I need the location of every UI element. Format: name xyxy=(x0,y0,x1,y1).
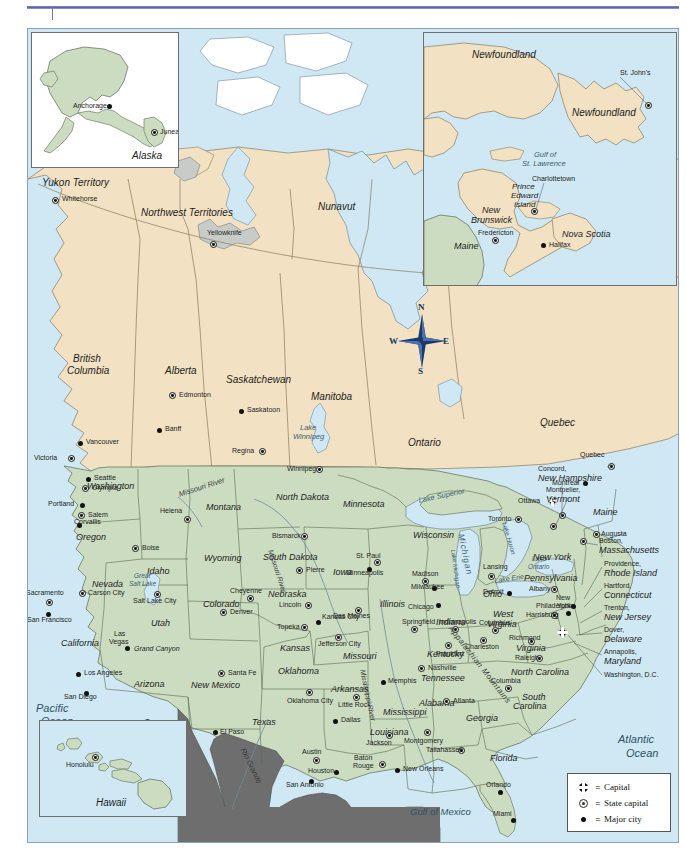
city-dot-ottawa[interactable] xyxy=(548,496,557,505)
city-dot-columbia-sc[interactable] xyxy=(505,685,512,692)
city-dot-new-orleans[interactable] xyxy=(395,768,400,773)
city-dot-winnipeg[interactable] xyxy=(316,466,323,473)
city-dot-lansing[interactable] xyxy=(488,573,495,580)
city-dot-saskatoon[interactable] xyxy=(239,409,244,414)
city-dot-charleston[interactable] xyxy=(480,637,487,644)
city-dot-san-francisco[interactable] xyxy=(46,612,51,617)
city-dot-new-york[interactable] xyxy=(571,604,576,609)
city-dot-chicago[interactable] xyxy=(436,603,441,608)
city-dot-cheyenne[interactable] xyxy=(247,595,254,602)
city-dot-boise[interactable] xyxy=(132,545,139,552)
city-dot-frankfort[interactable] xyxy=(445,642,452,649)
legend-row-state-capital: = State capital xyxy=(574,795,664,811)
city-dot-philadelphia[interactable] xyxy=(566,611,571,616)
city-dot-baton-rouge[interactable] xyxy=(379,761,386,768)
city-dot-yellowknife[interactable] xyxy=(210,241,217,248)
city-dot-edmonton[interactable] xyxy=(169,392,176,399)
city-dot-san-antonio[interactable] xyxy=(309,779,314,784)
city-dot-st-paul[interactable] xyxy=(374,559,381,566)
city-dot-denver[interactable] xyxy=(220,609,227,616)
city-dot-vancouver[interactable] xyxy=(78,441,83,446)
city-dot-fredericton[interactable] xyxy=(492,237,499,244)
inset-canada-east[interactable]: Newfoundland Newfoundland St. John's Gul… xyxy=(423,32,677,286)
city-dot-minneapolis[interactable] xyxy=(367,567,372,572)
city-dot-carson-city[interactable] xyxy=(79,590,86,597)
legend-row-capital: = Capital xyxy=(574,779,664,795)
city-dot-little-rock[interactable] xyxy=(353,694,360,701)
city-dot-montreal[interactable] xyxy=(583,481,588,486)
city-dot-milwaukee[interactable] xyxy=(432,586,437,591)
city-dot-salem[interactable] xyxy=(78,512,85,519)
city-dot-concord[interactable] xyxy=(559,512,566,519)
city-dot-charlottetown[interactable] xyxy=(531,208,538,215)
city-dot-nashville[interactable] xyxy=(418,665,425,672)
alaska-geography xyxy=(32,33,179,168)
city-dot-lincoln[interactable] xyxy=(305,602,312,609)
city-dot-harrisburg[interactable] xyxy=(551,612,558,619)
city-dot-tallahassee[interactable] xyxy=(458,747,465,754)
city-dot-banff[interactable] xyxy=(157,428,162,433)
city-dot-springfield[interactable] xyxy=(411,626,418,633)
city-dot-miami[interactable] xyxy=(511,818,516,823)
city-dot-san-diego[interactable] xyxy=(84,691,89,696)
city-dot-memphis[interactable] xyxy=(381,680,386,685)
city-dot-corvallis[interactable] xyxy=(77,523,82,528)
city-dot-austin[interactable] xyxy=(313,757,320,764)
legend-equals-state-capital: = xyxy=(592,798,604,808)
city-dot-montpelier[interactable] xyxy=(550,523,557,530)
city-dot-oklahoma-city[interactable] xyxy=(306,689,313,696)
city-dot-toronto[interactable] xyxy=(515,516,522,523)
city-dot-washington-dc[interactable] xyxy=(558,628,567,637)
map-canvas[interactable]: Yukon Territory Northwest Territories Nu… xyxy=(27,28,679,843)
city-dot-houston[interactable] xyxy=(334,770,339,775)
city-dot-boston[interactable] xyxy=(580,538,587,545)
city-dot-anchorage[interactable] xyxy=(107,104,112,109)
map-legend[interactable]: = Capital = State capital = Major city xyxy=(567,773,671,832)
city-dot-topeka[interactable] xyxy=(301,624,308,631)
city-dot-las-vegas[interactable] xyxy=(125,646,130,651)
city-dot-des-moines[interactable] xyxy=(355,607,362,614)
city-dot-columbus[interactable] xyxy=(492,627,499,634)
city-dot-helena[interactable] xyxy=(184,516,191,523)
city-dot-seattle[interactable] xyxy=(86,477,91,482)
city-dot-bismarck[interactable] xyxy=(301,533,308,540)
city-dot-juneau[interactable] xyxy=(151,129,158,136)
major-city-icon xyxy=(574,817,592,822)
city-dot-los-angeles[interactable] xyxy=(76,672,81,677)
legend-label-capital: Capital xyxy=(604,782,630,792)
city-dot-salt-lake-city[interactable] xyxy=(154,591,161,598)
legend-label-major-city: Major city xyxy=(604,814,642,824)
city-dot-portland[interactable] xyxy=(80,503,85,508)
city-dot-sacramento[interactable] xyxy=(46,599,53,606)
city-dot-whitehorse[interactable] xyxy=(52,197,59,204)
city-dot-el-paso[interactable] xyxy=(213,730,218,735)
city-dot-santa-fe[interactable] xyxy=(218,670,225,677)
city-dot-halifax[interactable] xyxy=(541,243,546,248)
city-dot-dallas[interactable] xyxy=(333,719,338,724)
city-dot-jackson[interactable] xyxy=(386,732,393,739)
city-dot-raleigh[interactable] xyxy=(536,655,543,662)
city-dot-st-johns[interactable] xyxy=(645,102,652,109)
city-dot-madison[interactable] xyxy=(422,578,429,585)
inset-hawaii[interactable]: Honolulu Hawaii xyxy=(39,720,187,817)
city-dot-montgomery[interactable] xyxy=(424,729,431,736)
legend-label-state-capital: State capital xyxy=(604,798,648,808)
city-dot-victoria[interactable] xyxy=(68,455,75,462)
city-dot-orlando[interactable] xyxy=(498,790,503,795)
city-dot-albany[interactable] xyxy=(551,586,558,593)
city-dot-augusta[interactable] xyxy=(593,531,600,538)
city-dot-olympia[interactable] xyxy=(82,485,89,492)
city-dot-indianapolis[interactable] xyxy=(452,626,459,633)
city-dot-pierre[interactable] xyxy=(296,567,303,574)
city-dot-kansas-city[interactable] xyxy=(316,620,321,625)
city-dot-atlanta[interactable] xyxy=(443,698,450,705)
city-dot-quebec[interactable] xyxy=(608,463,615,470)
city-dot-honolulu[interactable] xyxy=(92,754,99,761)
city-dot-regina[interactable] xyxy=(259,448,266,455)
city-dot-jefferson-city[interactable] xyxy=(335,634,342,641)
inset-alaska[interactable]: Anchorage Juneau Alaska xyxy=(31,32,179,168)
state-capital-icon xyxy=(574,799,592,808)
header-rule xyxy=(27,6,679,9)
city-dot-richmond[interactable] xyxy=(528,638,535,645)
city-dot-detroit[interactable] xyxy=(507,591,512,596)
